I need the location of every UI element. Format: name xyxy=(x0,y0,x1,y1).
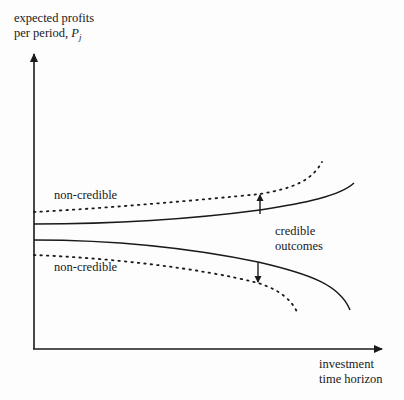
credible-label-line2: outcomes xyxy=(275,239,323,254)
x-axis-label-line2: time horizon xyxy=(319,372,383,387)
y-axis-symbol: P xyxy=(71,26,79,40)
upper-noncredible-label: non-credible xyxy=(54,188,117,203)
y-axis-label: expected profits per period, Pj xyxy=(14,11,94,45)
upper-noncredible-boundary-curve xyxy=(34,162,322,212)
y-axis-label-prefix: per period, xyxy=(14,26,71,40)
y-axis-label-line1: expected profits xyxy=(14,11,94,26)
y-axis-subscript: j xyxy=(79,32,82,42)
credible-label-line1: credible xyxy=(275,224,323,239)
credible-outcomes-label: credible outcomes xyxy=(275,224,323,254)
lower-noncredible-label: non-credible xyxy=(54,260,117,275)
x-axis-label: investment time horizon xyxy=(319,357,383,387)
x-axis-label-line1: investment xyxy=(319,357,383,372)
y-axis-label-line2: per period, Pj xyxy=(14,26,94,45)
